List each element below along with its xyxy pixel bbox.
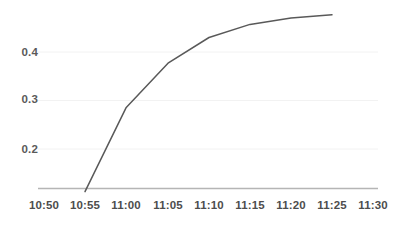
x-tick-label-8: 11:30 [352,199,394,212]
x-tick-label-4: 11:10 [188,199,230,212]
x-tick-label-6: 11:20 [270,199,312,212]
x-tick-label-2: 11:00 [105,199,147,212]
x-tick-label-0: 10:50 [23,199,65,212]
y-tick-label-1: 0.3 [8,93,38,105]
y-tick-label-2: 0.2 [8,143,38,155]
x-tick-label-5: 11:15 [229,199,271,212]
x-tick-label-7: 11:25 [311,199,353,212]
series-line [85,15,332,192]
y-tick-label-0: 0.4 [8,46,38,58]
x-tick-label-1: 10:55 [64,199,106,212]
line-chart: 0.4 0.3 0.2 10:50 10:55 11:00 11:05 11:1… [0,0,407,225]
chart-plot-area [0,0,407,225]
x-tick-label-3: 11:05 [147,199,189,212]
gridlines [38,52,378,149]
